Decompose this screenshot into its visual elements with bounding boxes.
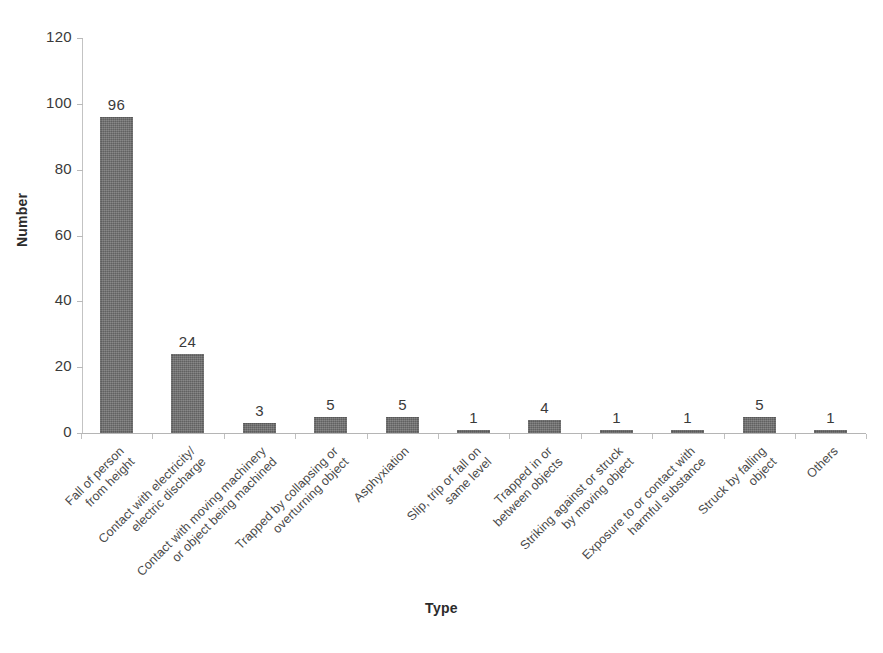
y-tick-mark — [77, 236, 83, 237]
x-tick-mark — [438, 434, 439, 439]
x-tick-mark — [652, 434, 653, 439]
x-tick-mark — [152, 434, 153, 439]
x-tick-mark — [795, 434, 796, 439]
y-tick-label: 40 — [28, 291, 72, 308]
bar — [600, 430, 633, 433]
x-tick-mark — [509, 434, 510, 439]
bar — [671, 430, 704, 433]
bar-value-label: 96 — [87, 96, 147, 113]
x-tick-mark — [367, 434, 368, 439]
bar — [814, 430, 847, 433]
bar — [243, 423, 276, 433]
y-tick-mark — [77, 301, 83, 302]
bar-chart: Number 120100806040200 9624355141151 Fal… — [0, 0, 883, 653]
x-tick-mark — [724, 434, 725, 439]
bar-value-label: 5 — [373, 396, 433, 413]
y-tick-label: 80 — [28, 160, 72, 177]
bar — [386, 417, 419, 433]
bar — [743, 417, 776, 433]
bar-value-label: 3 — [230, 402, 290, 419]
bar — [171, 354, 204, 433]
bar — [457, 430, 490, 433]
bar-value-label: 4 — [515, 399, 575, 416]
x-tick-mark — [866, 434, 867, 439]
y-tick-mark — [77, 367, 83, 368]
bar — [528, 420, 561, 433]
bar-value-label: 24 — [158, 333, 218, 350]
y-tick-label: 100 — [28, 94, 72, 111]
bar-value-label: 1 — [801, 409, 861, 426]
y-tick-label: 0 — [28, 423, 72, 440]
x-tick-mark — [81, 434, 82, 439]
bar-value-label: 1 — [658, 409, 718, 426]
y-tick-label: 20 — [28, 357, 72, 374]
bar — [314, 417, 347, 433]
y-tick-mark — [77, 38, 83, 39]
bar-value-label: 5 — [301, 396, 361, 413]
y-tick-label: 60 — [28, 226, 72, 243]
y-tick-mark — [77, 104, 83, 105]
bar-value-label: 1 — [587, 409, 647, 426]
bar-value-label: 1 — [444, 409, 504, 426]
y-axis-title: Number — [14, 180, 30, 260]
y-tick-label: 120 — [28, 28, 72, 45]
bar-value-label: 5 — [730, 396, 790, 413]
x-tick-mark — [581, 434, 582, 439]
x-tick-mark — [224, 434, 225, 439]
y-tick-mark — [77, 170, 83, 171]
x-axis-line — [82, 433, 866, 434]
x-axis-title: Type — [0, 600, 883, 616]
bar — [100, 117, 133, 433]
x-tick-mark — [295, 434, 296, 439]
